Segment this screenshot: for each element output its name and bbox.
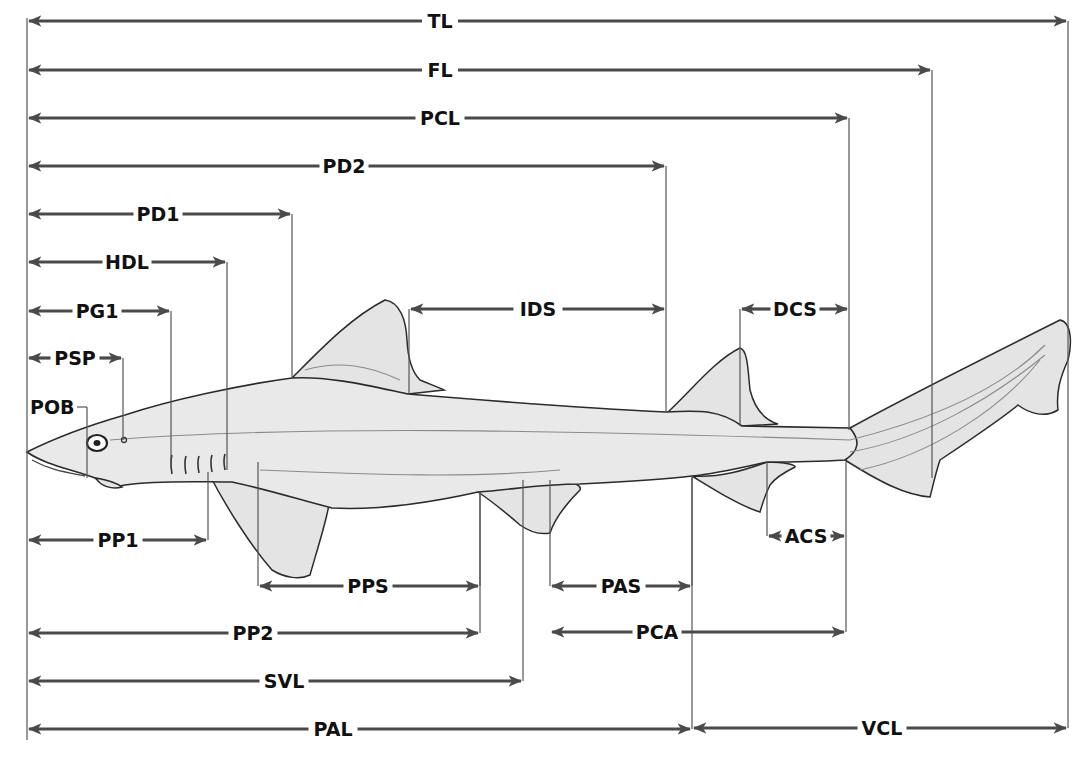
fl-label: FL [427, 59, 452, 81]
pp1-label: PP1 [97, 529, 138, 551]
eye [87, 435, 107, 451]
acs-label: ACS [785, 525, 828, 547]
pps-label: PPS [347, 575, 389, 597]
hdl-label: HDL [105, 251, 149, 273]
pob-label: POB [30, 396, 75, 418]
pal-label: PAL [314, 718, 353, 740]
dimension-lines [29, 21, 1066, 729]
shark-measurement-diagram: TLFLPCLPD2PD1HDLPG1PSPIDSDCSPP1ACSPPSPAS… [0, 0, 1082, 763]
pg1-label: PG1 [76, 300, 119, 322]
svl-label: SVL [264, 670, 305, 692]
pd1-label: PD1 [137, 203, 180, 225]
pca-label: PCA [636, 621, 679, 643]
pd2-label: PD2 [323, 155, 366, 177]
vcl-label: VCL [862, 717, 903, 739]
pcl-label: PCL [420, 107, 460, 129]
dcs-label: DCS [773, 298, 817, 320]
caudal-fin [845, 320, 1070, 497]
ids-label: IDS [520, 298, 557, 320]
psp-label: PSP [54, 347, 96, 369]
pp2-label: PP2 [232, 622, 273, 644]
shark-illustration [27, 300, 1070, 578]
pas-label: PAS [601, 575, 642, 597]
tl-label: TL [427, 10, 452, 32]
